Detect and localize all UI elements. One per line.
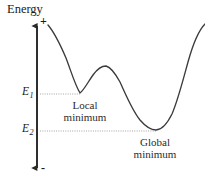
axis-positive-sign: + (40, 15, 47, 28)
energy-level-label-e2: E2 (22, 122, 34, 137)
e2-symbol: E (22, 122, 29, 134)
global-minimum-caption-line1: Global (122, 136, 188, 148)
local-minimum-caption: Local minimum (54, 99, 116, 124)
energy-landscape-figure: Energy + - E1 E2 Local minimum Global mi… (0, 0, 205, 188)
local-minimum-caption-line1: Local (54, 99, 116, 111)
global-minimum-caption: Global minimum (122, 136, 188, 161)
local-minimum-caption-line2: minimum (54, 111, 116, 123)
e1-symbol: E (22, 85, 29, 97)
axis-negative-sign: - (41, 162, 45, 175)
axis-title: Energy (7, 2, 43, 16)
e2-subscript: 2 (29, 128, 33, 137)
global-minimum-caption-line2: minimum (122, 148, 188, 160)
e1-subscript: 1 (29, 91, 33, 100)
energy-level-label-e1: E1 (22, 85, 34, 100)
